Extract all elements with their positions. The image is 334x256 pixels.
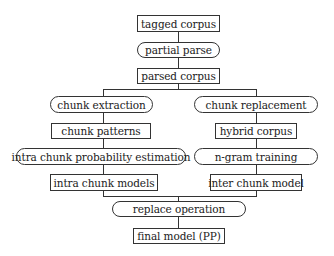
edge-hybrid-ngram (256, 139, 257, 148)
edge-partial-parsed (178, 58, 179, 68)
node-intra-chunk-probability-estimation: intra chunk probability estimation (16, 148, 186, 165)
branch-split-line (103, 89, 257, 90)
edge-replace-final (178, 217, 179, 228)
node-intra-chunk-models: intra chunk models (50, 174, 158, 191)
edge-replacement-hybrid (256, 113, 257, 123)
edge-tagged-partial (178, 32, 179, 42)
node-parsed-corpus: parsed corpus (137, 68, 220, 84)
edge-extraction-patterns (103, 113, 104, 123)
node-tagged-corpus: tagged corpus (137, 15, 220, 32)
node-ngram-training: n-gram training (194, 148, 318, 165)
merge-line (103, 196, 257, 197)
edge-ngram-inter (256, 165, 257, 174)
node-inter-chunk-model: inter chunk model (210, 174, 302, 191)
node-chunk-replacement: chunk replacement (194, 96, 318, 113)
edge-patterns-estimation (103, 139, 104, 148)
node-hybrid-corpus: hybrid corpus (215, 123, 297, 139)
node-final-model: final model (PP) (133, 228, 225, 244)
node-chunk-patterns: chunk patterns (51, 123, 151, 139)
edge-branch-right (256, 89, 257, 96)
node-partial-parse: partial parse (137, 42, 220, 58)
edge-estimation-models (103, 165, 104, 174)
node-replace-operation: replace operation (112, 201, 246, 217)
node-chunk-extraction: chunk extraction (50, 96, 153, 113)
edge-branch-left (103, 89, 104, 96)
